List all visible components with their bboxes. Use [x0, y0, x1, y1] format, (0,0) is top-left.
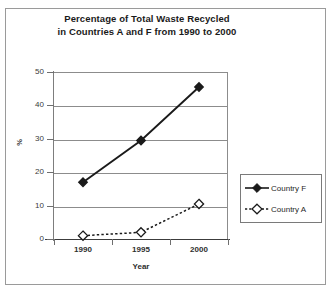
y-tick-mark-20 — [47, 172, 54, 173]
x-axis-line — [45, 239, 230, 240]
plot-area — [54, 72, 228, 239]
chart-legend: Country F Country A — [240, 174, 322, 223]
y-tick-label-20: 20 — [22, 167, 44, 176]
x-tick-label-1990: 1990 — [63, 245, 103, 254]
x-tick-mark-0 — [54, 239, 55, 245]
gridline-40 — [54, 106, 228, 107]
legend-marker-filled-diamond-icon — [244, 182, 270, 194]
chart-figure: Percentage of Total Waste Recycled in Co… — [0, 0, 333, 293]
gridline-30 — [54, 140, 228, 141]
x-tick-mark-2 — [170, 239, 171, 245]
x-tick-label-1995: 1995 — [121, 245, 161, 254]
legend-label-country-f: Country F — [271, 184, 306, 193]
x-tick-mark-1 — [112, 239, 113, 245]
legend-marker-open-diamond-icon — [244, 203, 270, 215]
y-tick-mark-30 — [47, 139, 54, 140]
legend-entry-country-a[interactable]: Country A — [244, 202, 306, 216]
chart-title: Percentage of Total Waste Recycled in Co… — [12, 12, 282, 38]
y-tick-label-50: 50 — [22, 67, 44, 76]
chart-title-line-1: Percentage of Total Waste Recycled — [12, 12, 282, 25]
y-tick-label-10: 10 — [22, 201, 44, 210]
legend-label-country-a: Country A — [271, 205, 306, 214]
y-axis-line — [53, 71, 54, 241]
y-tick-mark-0 — [47, 239, 54, 240]
y-tick-mark-10 — [47, 206, 54, 207]
x-axis-title: Year — [54, 262, 228, 271]
legend-entry-country-f[interactable]: Country F — [244, 181, 306, 195]
x-tick-mark-3 — [228, 239, 229, 245]
y-tick-label-0: 0 — [22, 234, 44, 243]
y-tick-label-30: 30 — [22, 134, 44, 143]
gridline-10 — [54, 207, 228, 208]
chart-title-line-2: in Countries A and F from 1990 to 2000 — [12, 25, 282, 38]
y-tick-label-40: 40 — [22, 100, 44, 109]
y-tick-mark-40 — [47, 105, 54, 106]
x-tick-label-2000: 2000 — [179, 245, 219, 254]
gridline-20 — [54, 173, 228, 174]
y-tick-mark-50 — [47, 72, 54, 73]
